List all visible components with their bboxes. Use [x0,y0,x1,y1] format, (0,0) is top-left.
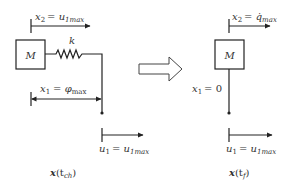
spring-end-dot [100,111,103,114]
u1-input-arrow: u1= u1max [226,128,276,156]
right-state-caption: x(tf) [228,167,249,180]
hollow-right-arrow-icon [139,57,182,81]
x2-velocity-arrow: x2= q̇max [229,11,277,33]
x2-velocity-arrow: x2= u1max [31,11,90,33]
mass-label: M [24,50,36,61]
u1-label: u1= u1max [99,143,149,156]
diagram-canvas: x2= u1max M k x1= φmax u1= u1max x(tch) [0,0,300,188]
link-end-dot [227,111,230,114]
spring-icon [45,50,102,113]
spring-constant-label: k [69,35,75,46]
mass-label: M [223,50,235,61]
u1-input-arrow: u1= u1max [99,128,149,156]
u1-label: u1= u1max [226,143,276,156]
x1-displacement-arrow: x1= φmax [31,83,101,106]
x2-label: x2= q̇max [232,11,277,24]
left-state: x2= u1max M k x1= φmax u1= u1max x(tch) [16,11,149,180]
x2-label: x2= u1max [35,11,84,24]
left-state-caption: x(tch) [49,167,76,180]
x1-label: x1= φmax [40,83,86,96]
x1-label: x1= 0 [192,83,222,96]
right-state: x2= q̇max M x1= 0 u1= u1max x(tf) [192,11,277,180]
